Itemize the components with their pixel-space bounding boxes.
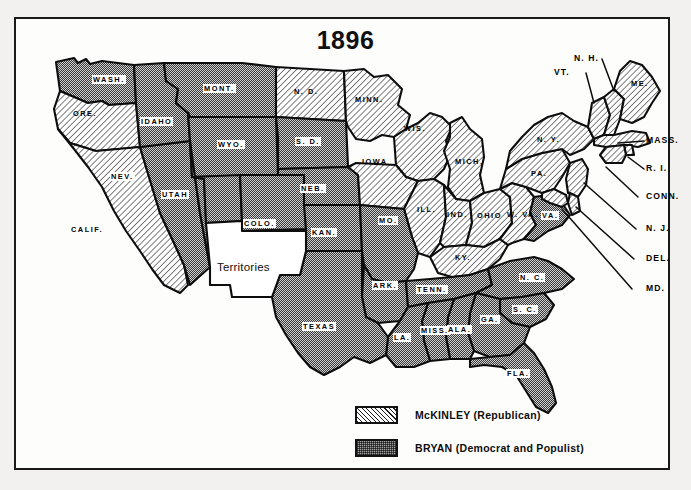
state-label-ark: ARK.: [372, 281, 398, 290]
state-label-ind: IND.: [446, 210, 469, 219]
state-label-sd: S. D.: [295, 137, 321, 146]
map-canvas: WASH. ORE. CALIF. NEV. IDAHO MONT. WYO. …: [14, 17, 670, 470]
state-label-sc: S. C.: [512, 305, 538, 314]
state-label-ore: ORE.: [72, 109, 98, 118]
state-nj[interactable]: [566, 159, 588, 197]
state-label-tenn: TENN.: [416, 285, 448, 294]
callout-label-mass: MASS.: [646, 135, 679, 145]
usa-map-svg: [14, 17, 670, 470]
state-minn[interactable]: [344, 69, 410, 141]
state-label-nd: N. D.: [293, 87, 319, 96]
state-label-nev: NEV.: [110, 172, 135, 181]
callout-label-nh: N. H.: [574, 53, 599, 63]
map-legend: McKINLEY (Republican) BRYAN (Democrat an…: [355, 406, 584, 472]
state-label-minn: MINN.: [354, 95, 384, 104]
callout-label-conn: CONN.: [646, 191, 679, 201]
state-label-la: LA.: [393, 333, 411, 342]
state-label-idaho: IDAHO: [140, 117, 173, 126]
state-label-texas: TEXAS: [302, 322, 336, 331]
state-label-ala: ALA.: [447, 325, 472, 334]
state-label-utah: UTAH: [161, 190, 189, 199]
state-label-ga: GA.: [480, 315, 500, 324]
state-label-wva: W. VA.: [506, 210, 539, 219]
election-map-page: 1896: [0, 0, 691, 490]
state-label-pa: PA.: [530, 169, 548, 178]
state-label-nc: N. C.: [519, 273, 545, 282]
state-label-iowa: IOWA: [361, 157, 389, 166]
legend-label-bryan: BRYAN (Democrat and Populist): [415, 442, 584, 454]
legend-item-mckinley: McKINLEY (Republican): [355, 406, 584, 424]
state-label-wash: WASH.: [92, 75, 126, 84]
callout-label-vt: VT.: [554, 67, 570, 77]
state-label-mont: MONT.: [203, 84, 236, 93]
state-label-neb: NEB.: [300, 184, 326, 193]
legend-item-bryan: BRYAN (Democrat and Populist): [355, 439, 584, 457]
callout-label-md: MD.: [646, 283, 665, 293]
state-label-mo: MO.: [378, 216, 398, 225]
state-label-va: VA.: [541, 211, 559, 220]
state-label-miss: MISS.: [420, 326, 450, 335]
state-label-wyo: WYO.: [217, 140, 245, 149]
state-label-ill: ILL.: [416, 205, 437, 214]
state-label-colo: COLO.: [243, 219, 276, 228]
state-label-fla: FLA.: [506, 369, 530, 378]
state-label-ny: N. Y.: [536, 135, 561, 144]
state-label-wis: WIS.: [403, 124, 427, 133]
callout-label-del: DEL.: [646, 253, 670, 263]
state-label-ohio: OHIO: [476, 211, 503, 220]
state-me[interactable]: [614, 61, 660, 123]
bryan-swatch: [355, 439, 398, 457]
mckinley-swatch: [355, 406, 398, 424]
state-label-me: ME.: [630, 79, 650, 88]
legend-label-mckinley: McKINLEY (Republican): [415, 409, 541, 421]
state-label-kan: KAN.: [311, 228, 337, 237]
callout-label-nj: N. J.: [646, 223, 670, 233]
region-label-territories: Territories: [217, 261, 270, 273]
state-label-ky: KY.: [454, 253, 472, 262]
state-label-calif: CALIF.: [70, 225, 104, 234]
state-del[interactable]: [568, 193, 580, 215]
callout-label-ri: R. I.: [646, 163, 667, 173]
state-label-mich: MICH.: [454, 157, 484, 166]
